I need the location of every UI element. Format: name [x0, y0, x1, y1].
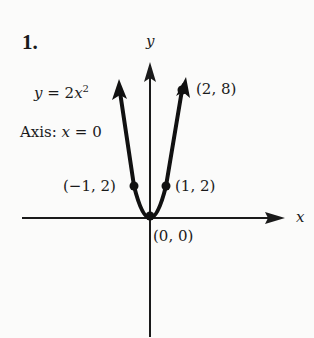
axis-of-symmetry-label: Axis: x = 0 [20, 125, 102, 140]
point-neg1-2 [130, 182, 139, 191]
equation-label: y = 2x2 [34, 84, 89, 101]
graph [0, 0, 314, 338]
point-1-2 [162, 182, 171, 191]
point-origin [146, 212, 155, 221]
point-label-neg1-2: (−1, 2) [63, 179, 116, 194]
parabola-curve [120, 84, 184, 218]
x-axis-label: x [296, 210, 304, 225]
x-axis-arrow-icon [265, 212, 285, 224]
point-label-1-2: (1, 2) [175, 179, 215, 194]
point-label-origin: (0, 0) [153, 229, 193, 244]
y-axis-label: y [146, 34, 154, 49]
point-label-2-8: (2, 8) [196, 82, 236, 97]
point-2-8 [178, 86, 187, 95]
